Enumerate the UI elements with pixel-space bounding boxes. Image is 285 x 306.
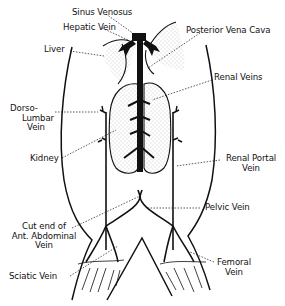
label-posterior-vena-cava: Posterior Vena Cava <box>186 26 270 36</box>
label-ant-abdominal-vein: Cut end of Ant. Abdominal Vein <box>6 222 82 251</box>
label-sciatic-vein: Sciatic Vein <box>9 272 57 282</box>
label-kidney: Kidney <box>30 154 59 164</box>
label-renal-portal-vein: Renal Portal Vein <box>221 154 281 173</box>
label-pelvic-vein: Pelvic Vein <box>205 203 250 213</box>
label-dorso-lumbar-vein: Dorso- Lumbar Vein <box>10 104 54 133</box>
frog-venous-system-diagram: Sinus Venosus Hepatic Vein Posterior Ven… <box>0 0 285 306</box>
label-liver: Liver <box>44 45 65 55</box>
label-sinus-venosus: Sinus Venosus <box>72 8 132 18</box>
leg-veins <box>86 226 194 262</box>
label-renal-veins: Renal Veins <box>214 73 262 83</box>
label-femoral-vein: Femoral Vein <box>212 258 256 277</box>
label-hepatic-vein: Hepatic Vein <box>63 23 116 33</box>
thigh-cuts <box>78 260 206 292</box>
